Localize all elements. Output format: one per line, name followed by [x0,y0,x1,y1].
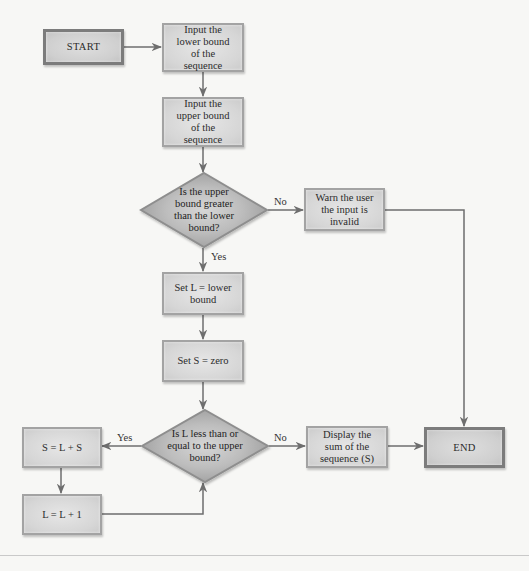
end-node: END [424,427,505,468]
display-sum-node: Display the sum of the sequence (S) [306,426,388,468]
decision-check-bounds: Is the upper bound greater than the lowe… [164,178,244,242]
set-s-node: Set S = zero [162,340,244,382]
decision-check-bounds-label: Is the upper bound greater than the lowe… [172,186,236,234]
edge-label-bounds-no: No [274,196,287,207]
page-divider [0,555,529,556]
edge-increment-to-check-l [102,483,203,514]
input-lower-bound-node: Input the lower bound of the sequence [162,23,244,72]
edge-label-l-yes: Yes [117,432,132,443]
edge-label-bounds-yes: Yes [211,251,226,262]
flowchart-connectors [0,0,529,571]
start-label: START [67,41,100,53]
edge-label-l-no: No [274,432,287,443]
input-upper-bound-label: Input the upper bound of the sequence [173,98,233,146]
warn-invalid-input-node: Warn the user the input is invalid [304,188,385,231]
decision-check-l: Is L less than or equal to the upper bou… [160,420,250,472]
decision-check-l-label: Is L less than or equal to the upper bou… [165,428,245,464]
edge-warn-to-end [385,210,464,426]
increment-node: L = L + 1 [22,494,102,535]
set-s-label: Set S = zero [177,355,228,367]
sum-node: S = L + S [22,427,102,468]
warn-invalid-input-label: Warn the user the input is invalid [310,192,380,228]
input-lower-bound-label: Input the lower bound of the sequence [173,24,233,72]
display-sum-label: Display the sum of the sequence (S) [313,429,381,465]
set-l-label: Set L = lower bound [170,282,236,306]
set-l-node: Set L = lower bound [162,272,244,315]
start-node: START [43,29,124,65]
sum-label: S = L + S [42,442,82,454]
end-label: END [453,442,475,454]
increment-label: L = L + 1 [42,509,82,521]
input-upper-bound-node: Input the upper bound of the sequence [162,97,244,147]
